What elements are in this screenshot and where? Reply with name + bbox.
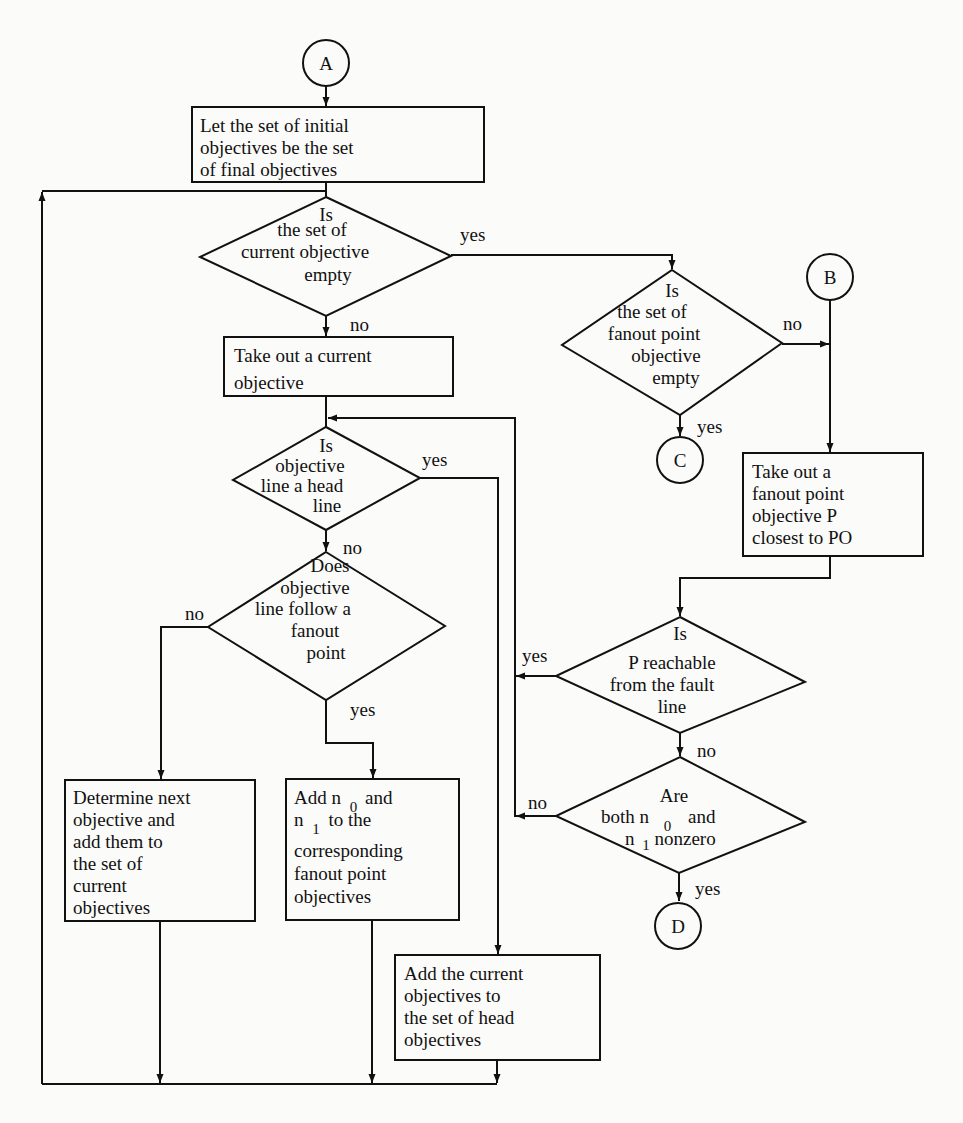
- init-box-line-1: Let the set of initial: [200, 115, 349, 136]
- determine-line-3: add them to: [73, 831, 163, 852]
- add-n-line-2-b: to the: [329, 809, 372, 830]
- decision-both-nonzero: Are both n 0 and n 1 nonzero: [556, 757, 805, 873]
- decision-p-reachable: Is P reachable from the fault line: [556, 617, 805, 733]
- init-box-line-3: of final objectives: [200, 159, 337, 180]
- edge-follow-fanout-no: [161, 627, 208, 779]
- fanout-empty-line-2: the set of: [617, 301, 687, 322]
- add-current-to-head-box: Add the current objectives to the set of…: [395, 955, 600, 1060]
- init-box-line-2: objectives be the set: [200, 137, 354, 158]
- label-reachable-yes: yes: [522, 645, 547, 666]
- fanout-empty-line-1: Is: [665, 280, 679, 301]
- head-line-line-4: line: [313, 495, 342, 516]
- decision-fanout-objective-empty: Is the set of fanout point objective emp…: [562, 270, 782, 415]
- add-head-line-3: the set of head: [404, 1007, 515, 1028]
- determine-line-5: current: [73, 875, 128, 896]
- add-n0-n1-box: Add n 0 and n 1 to the corresponding fan…: [286, 779, 459, 920]
- add-n-line-5: objectives: [294, 886, 371, 907]
- fanout-empty-line-3: fanout point: [608, 323, 701, 344]
- follow-fanout-line-1: Does: [310, 555, 349, 576]
- take-fanout-line-3: objective P: [752, 505, 837, 526]
- decision-current-objective-empty: Is the set of current objective empty: [200, 197, 451, 316]
- reachable-line-3: from the fault: [610, 674, 715, 695]
- init-objectives-box: Let the set of initial objectives be the…: [192, 107, 484, 182]
- add-n-line-1-a: Add n: [294, 787, 341, 808]
- add-n-line-1-b: and: [365, 787, 393, 808]
- determine-line-1: Determine next: [73, 787, 191, 808]
- current-empty-line-4: empty: [304, 264, 352, 285]
- label-follow-fanout-yes: yes: [350, 699, 375, 720]
- add-head-line-1: Add the current: [404, 963, 524, 984]
- reachable-line-4: line: [658, 696, 687, 717]
- add-n-line-2-sub: 1: [312, 821, 320, 837]
- label-fanout-empty-no: no: [783, 313, 802, 334]
- add-n-line-4: fanout point: [294, 863, 387, 884]
- fanout-empty-line-5: empty: [652, 367, 700, 388]
- nonzero-line-2-b: and: [688, 806, 716, 827]
- take-current-line-1: Take out a current: [234, 345, 372, 366]
- reachable-line-1: Is: [673, 623, 687, 644]
- edge-current-empty-yes: [451, 255, 672, 269]
- take-current-line-2: objective: [234, 372, 304, 393]
- add-head-line-4: objectives: [404, 1029, 481, 1050]
- head-line-line-2: objective: [275, 455, 345, 476]
- follow-fanout-line-4: fanout: [291, 620, 340, 641]
- connector-c-label: C: [674, 450, 687, 471]
- decision-head-line: Is objective line a head line: [233, 427, 420, 530]
- take-fanout-line-4: closest to PO: [752, 527, 852, 548]
- connector-d-label: D: [671, 916, 685, 937]
- head-line-line-1: Is: [319, 435, 333, 456]
- label-reachable-no: no: [697, 740, 716, 761]
- edge-take-fanout-to-reachable: [680, 556, 830, 616]
- flowchart: A Let the set of initial objectives be t…: [0, 0, 963, 1123]
- label-fanout-empty-yes: yes: [697, 416, 722, 437]
- nonzero-line-3-a: n: [625, 828, 635, 849]
- follow-fanout-line-3: line follow a: [255, 598, 352, 619]
- take-fanout-line-2: fanout point: [752, 483, 845, 504]
- nonzero-line-3: n 1 nonzero: [625, 828, 716, 854]
- take-out-fanout-objective-box: Take out a fanout point objective P clos…: [743, 453, 923, 556]
- determine-next-objective-box: Determine next objective and add them to…: [65, 780, 255, 921]
- reachable-line-2: P reachable: [628, 652, 715, 673]
- head-line-line-3: line a head: [261, 475, 344, 496]
- connector-b: B: [807, 254, 853, 300]
- fanout-empty-line-4: objective: [631, 345, 701, 366]
- connector-a-label: A: [319, 53, 333, 74]
- add-n-line-3: corresponding: [294, 840, 403, 861]
- nonzero-line-1: Are: [660, 785, 688, 806]
- determine-line-4: the set of: [73, 853, 143, 874]
- decision-follow-fanout-point: Does objective line follow a fanout poin…: [208, 552, 445, 700]
- nonzero-line-3-b: nonzero: [655, 828, 716, 849]
- label-current-empty-no: no: [350, 314, 369, 335]
- take-out-current-objective-box: Take out a current objective: [224, 337, 453, 396]
- connector-a: A: [303, 40, 349, 86]
- label-nonzero-no: no: [528, 792, 547, 813]
- add-n-line-2-a: n: [294, 809, 304, 830]
- label-head-line-yes: yes: [422, 449, 447, 470]
- connector-b-label: B: [824, 267, 837, 288]
- current-empty-line-3: current objective: [241, 241, 369, 262]
- label-follow-fanout-no: no: [185, 603, 204, 624]
- connector-c: C: [657, 437, 703, 483]
- label-nonzero-yes: yes: [695, 878, 720, 899]
- label-current-empty-yes: yes: [460, 224, 485, 245]
- nonzero-line-3-sub: 1: [642, 837, 650, 853]
- determine-line-2: objective and: [73, 809, 175, 830]
- take-fanout-line-1: Take out a: [752, 461, 831, 482]
- follow-fanout-line-5: point: [306, 642, 346, 663]
- connector-d: D: [655, 903, 701, 949]
- follow-fanout-line-2: objective: [280, 577, 350, 598]
- nonzero-line-2-a: both n: [601, 806, 650, 827]
- add-head-line-2: objectives to: [404, 985, 501, 1006]
- add-n-line-2: n 1 to the: [294, 809, 371, 838]
- determine-line-6: objectives: [73, 897, 150, 918]
- current-empty-line-2: the set of: [277, 219, 347, 240]
